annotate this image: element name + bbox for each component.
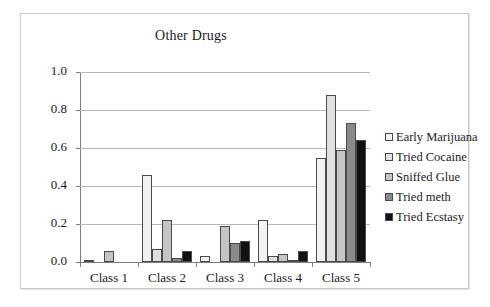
bar[interactable] bbox=[268, 256, 278, 262]
bar-group bbox=[80, 72, 138, 262]
legend-swatch-icon bbox=[385, 213, 393, 221]
legend-item[interactable]: Tried Ecstasy bbox=[385, 207, 489, 227]
x-axis-line bbox=[80, 262, 371, 263]
y-tick-label: 0.0 bbox=[27, 253, 67, 269]
legend-item[interactable]: Sniffed Glue bbox=[385, 167, 489, 187]
bar[interactable] bbox=[162, 220, 172, 262]
bar[interactable] bbox=[316, 158, 326, 263]
x-tick-mark bbox=[196, 262, 197, 267]
y-tick-label: 0.6 bbox=[27, 139, 67, 155]
bar[interactable] bbox=[84, 260, 94, 262]
bar[interactable] bbox=[278, 254, 288, 262]
bar[interactable] bbox=[326, 95, 336, 262]
y-tick-label: 0.8 bbox=[27, 101, 67, 117]
chart-title: Other Drugs bbox=[21, 28, 361, 44]
bar[interactable] bbox=[220, 226, 230, 262]
y-tick-label: 0.2 bbox=[27, 215, 67, 231]
bar[interactable] bbox=[230, 243, 240, 262]
bar-group bbox=[312, 72, 370, 262]
legend-swatch-icon bbox=[385, 133, 393, 141]
bar[interactable] bbox=[346, 123, 356, 262]
bar-group bbox=[138, 72, 196, 262]
bar[interactable] bbox=[258, 220, 268, 262]
legend-label: Tried Cocaine bbox=[396, 150, 467, 165]
x-tick-mark bbox=[312, 262, 313, 267]
bar[interactable] bbox=[152, 249, 162, 262]
x-tick-mark bbox=[370, 262, 371, 267]
bar[interactable] bbox=[182, 251, 192, 262]
bar-group bbox=[254, 72, 312, 262]
legend-label: Tried meth bbox=[396, 190, 451, 205]
bar[interactable] bbox=[172, 258, 182, 262]
x-tick-mark bbox=[254, 262, 255, 267]
x-tick-mark bbox=[138, 262, 139, 267]
legend-swatch-icon bbox=[385, 153, 393, 161]
legend-item[interactable]: Early Marijuana bbox=[385, 127, 489, 147]
plot-area bbox=[80, 72, 370, 262]
legend-swatch-icon bbox=[385, 193, 393, 201]
legend-item[interactable]: Tried meth bbox=[385, 187, 489, 207]
bar[interactable] bbox=[356, 140, 366, 262]
bar[interactable] bbox=[336, 150, 346, 262]
legend-item[interactable]: Tried Cocaine bbox=[385, 147, 489, 167]
bar[interactable] bbox=[240, 241, 250, 262]
y-tick-label: 1.0 bbox=[27, 63, 67, 79]
legend-label: Early Marijuana bbox=[396, 130, 478, 145]
legend-label: Tried Ecstasy bbox=[396, 210, 464, 225]
x-tick-mark bbox=[80, 262, 81, 267]
y-tick-label: 0.4 bbox=[27, 177, 67, 193]
chart-frame: Other Drugs 0.00.20.40.60.81.0 Class 1Cl… bbox=[20, 13, 469, 289]
legend-swatch-icon bbox=[385, 173, 393, 181]
bar[interactable] bbox=[288, 260, 298, 262]
bar[interactable] bbox=[104, 251, 114, 262]
bar[interactable] bbox=[200, 256, 210, 262]
legend-label: Sniffed Glue bbox=[396, 170, 460, 185]
bar[interactable] bbox=[142, 175, 152, 262]
chart-legend: Early MarijuanaTried CocaineSniffed Glue… bbox=[385, 127, 489, 227]
x-tick-label: Class 5 bbox=[301, 270, 381, 286]
bar-group bbox=[196, 72, 254, 262]
bar[interactable] bbox=[298, 251, 308, 262]
